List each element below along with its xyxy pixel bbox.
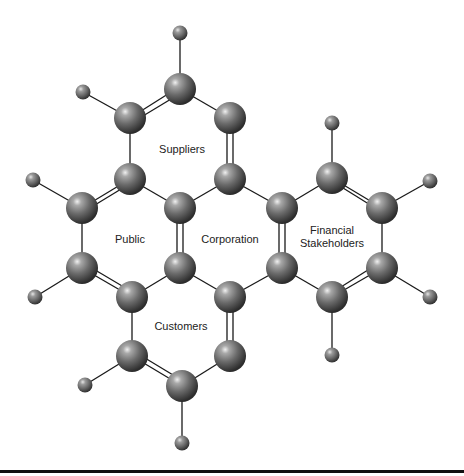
atom-h bbox=[325, 116, 340, 131]
atom-h bbox=[28, 290, 43, 305]
atom-c bbox=[366, 192, 398, 224]
label-customers: Customers bbox=[154, 320, 208, 332]
atom-c bbox=[164, 252, 196, 284]
bottom-rule bbox=[0, 470, 464, 473]
atom-c bbox=[164, 73, 196, 105]
atom-c bbox=[214, 163, 246, 195]
atom-c bbox=[316, 162, 348, 194]
atom-c bbox=[214, 102, 246, 134]
atom-c bbox=[316, 281, 348, 313]
atom-h bbox=[78, 378, 93, 393]
label-public: Public bbox=[115, 233, 145, 245]
atom-c bbox=[214, 281, 246, 313]
atom-h bbox=[423, 290, 438, 305]
atom-h bbox=[26, 173, 41, 188]
atom-c bbox=[66, 252, 98, 284]
atom-c bbox=[266, 192, 298, 224]
molecule-diagram: Suppliers Public Corporation Financial S… bbox=[0, 0, 464, 476]
atom-c bbox=[266, 252, 298, 284]
atom-c bbox=[114, 163, 146, 195]
atom-c bbox=[116, 281, 148, 313]
label-financial: Financial bbox=[310, 224, 354, 236]
atom-h bbox=[423, 174, 438, 189]
atom-c bbox=[166, 370, 198, 402]
atom-c bbox=[116, 340, 148, 372]
atom-h bbox=[325, 348, 340, 363]
label-stakeholders: Stakeholders bbox=[300, 237, 365, 249]
label-suppliers: Suppliers bbox=[159, 143, 205, 155]
atom-c bbox=[164, 192, 196, 224]
atom-c bbox=[66, 192, 98, 224]
label-corporation: Corporation bbox=[201, 233, 258, 245]
atom-c bbox=[114, 102, 146, 134]
atom-h bbox=[76, 85, 91, 100]
atom-c bbox=[214, 340, 246, 372]
atom-h bbox=[175, 436, 190, 451]
atom-h bbox=[173, 26, 188, 41]
atom-c bbox=[366, 252, 398, 284]
